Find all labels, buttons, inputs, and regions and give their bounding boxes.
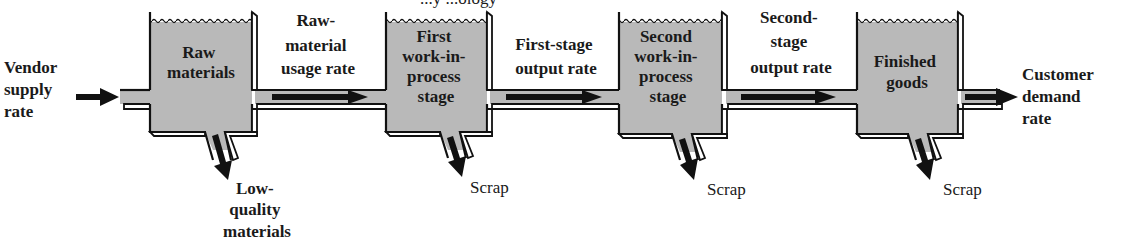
- second-stage-output-rate-label: Second- stage output rate: [750, 8, 832, 77]
- drain-label: Scrap: [943, 180, 982, 199]
- customer-demand-rate-label: Customer demand rate: [1022, 65, 1098, 128]
- drain-label: Scrap: [470, 178, 509, 197]
- tank-first-wip: First work-in- process stage Scrap: [386, 12, 509, 197]
- inventory-flow-diagram: ...y ...ology Raw ma: [0, 0, 1121, 247]
- raw-material-usage-rate-label: Raw- material usage rate: [281, 11, 356, 78]
- tank-raw-materials: Raw materials Low- quality materials: [150, 12, 291, 241]
- drain-label: Scrap: [707, 180, 746, 199]
- first-stage-output-rate-label: First-stage output rate: [515, 35, 597, 78]
- title-fragment: ...y ...ology: [420, 0, 497, 8]
- tank-second-wip: Second work-in- process stage Scrap: [619, 12, 746, 199]
- vendor-supply-rate-label: Vendor supply rate: [4, 58, 61, 121]
- drain-label: Low- quality materials: [223, 179, 291, 241]
- arrow-right-icon: [76, 88, 119, 106]
